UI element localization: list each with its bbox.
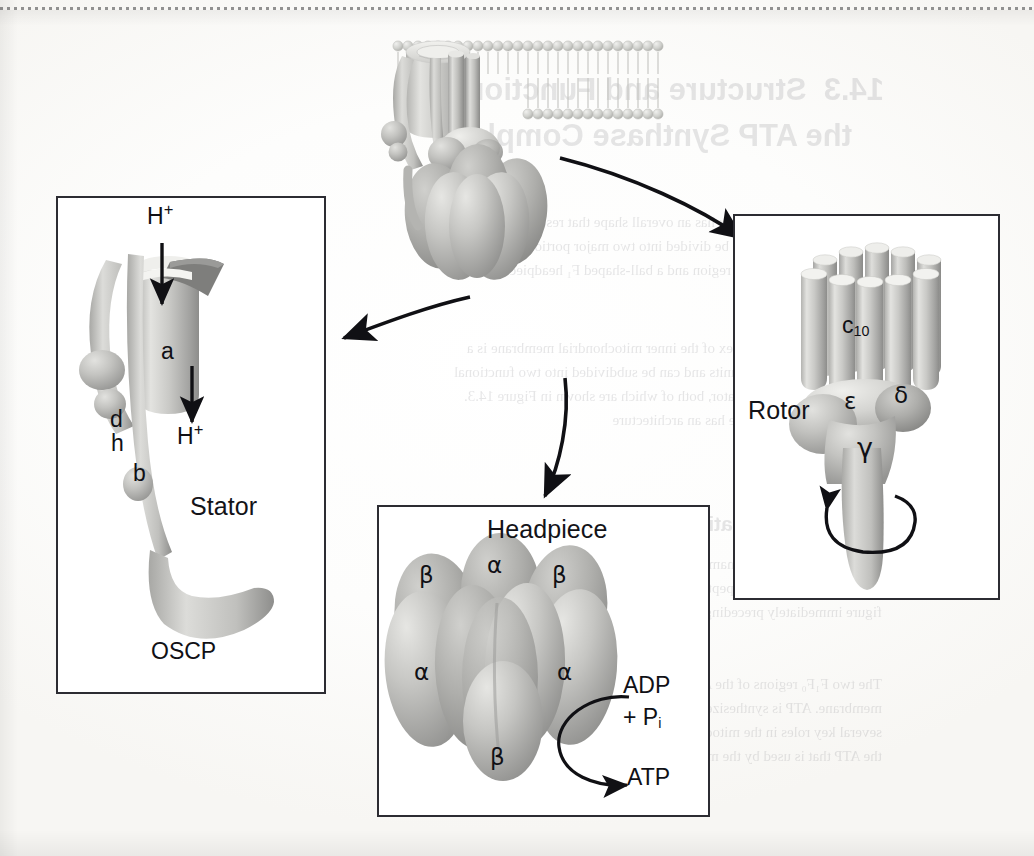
arrow-to-stator — [344, 297, 470, 338]
label-subunit-gamma: γ — [857, 432, 873, 463]
label-alpha-upper-center: α — [487, 552, 502, 578]
panel-rotor: c10 ε δ γ Rotor — [733, 214, 1000, 600]
label-rotor-title: Rotor — [748, 396, 810, 425]
label-beta-upper-left: β — [419, 562, 434, 588]
label-alpha-mid-left: α — [414, 659, 429, 685]
label-alpha-mid-right: α — [557, 659, 572, 685]
label-subunit-epsilon: ε — [844, 388, 856, 414]
label-oscp: OSCP — [151, 638, 216, 665]
label-beta-bottom: β — [490, 744, 505, 770]
subunit-d-blob — [79, 350, 125, 390]
label-c-ring: c10 — [842, 312, 869, 339]
subunit-a-body — [137, 256, 224, 414]
panel-headpiece: Headpiece β α β α α β ADP + Pi ATP — [377, 505, 710, 817]
label-proton-out: H+ — [177, 420, 203, 450]
arrow-to-headpiece — [545, 378, 566, 496]
panel-stator: H+ H+ a d h b Stator OSCP — [56, 196, 326, 694]
label-subunit-delta: δ — [894, 382, 908, 408]
label-subunit-a: a — [161, 338, 174, 365]
label-product-atp: ATP — [627, 764, 670, 791]
c10-ring-front — [801, 268, 939, 398]
label-subunit-d: d — [110, 406, 123, 433]
label-subunit-b: b — [133, 460, 146, 487]
subunit-gamma-shaft — [842, 448, 884, 590]
arrow-to-rotor — [560, 158, 742, 238]
label-stator-title: Stator — [190, 492, 257, 521]
label-subunit-h: h — [111, 430, 124, 457]
oscp-arm — [149, 550, 274, 639]
rotor-foot-assembly — [789, 379, 931, 590]
label-substrate-phosphate: + Pi — [623, 704, 661, 731]
label-substrate-adp: ADP — [623, 672, 670, 699]
label-proton-in: H+ — [147, 200, 173, 230]
label-headpiece-title: Headpiece — [487, 515, 607, 544]
label-beta-upper-right: β — [552, 562, 567, 588]
figure-page: 14.3 Structure and Function ofthe ATP Sy… — [0, 0, 1034, 856]
